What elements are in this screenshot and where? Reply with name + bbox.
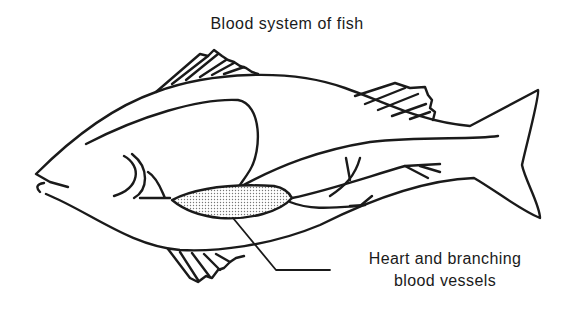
gill-arc-outer (114, 156, 136, 196)
ventral-fin (168, 249, 244, 282)
heart-label-line1: Heart and branching (330, 248, 560, 270)
gill-arc-inner (132, 154, 145, 198)
blood-vessels (290, 158, 440, 208)
fish-body-outline (36, 75, 540, 251)
heart (172, 185, 292, 218)
heart-label: Heart and branching blood vessels (330, 248, 560, 292)
second-dorsal-fin (355, 83, 435, 120)
heart-label-line2: blood vessels (330, 270, 560, 292)
